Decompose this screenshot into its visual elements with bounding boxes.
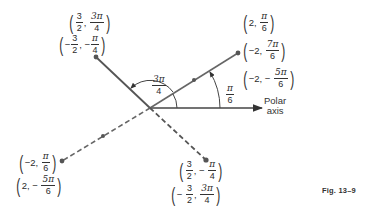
point-upper-left — [94, 55, 99, 60]
label-lower-right-1: ( 32 , − π4 ) — [178, 160, 224, 181]
label-upper-left-1: ( 32 , 3π4 ) — [68, 12, 111, 33]
label-upper-right-2: ( −2 , 7π6 ) — [242, 40, 287, 61]
label-lower-left-2: ( 2 , − 5π6 ) — [15, 175, 63, 196]
label-upper-left-2: ( − 32 , − π4 ) — [58, 34, 107, 55]
point-upper-right — [236, 51, 241, 56]
midpoint-dot-lower-left — [101, 134, 105, 138]
label-lower-right-2: ( − 32 , 3π4 ) — [170, 184, 222, 205]
angle-arc-small — [173, 94, 177, 108]
label-upper-right-1: ( 2 , π6 ) — [242, 12, 276, 33]
point-lower-left — [60, 159, 65, 164]
label-upper-right-3: ( −2 , − 5π6 ) — [242, 68, 295, 89]
polar-axis-label: Polar axis — [264, 96, 286, 116]
midpoint-dot-upper-right — [192, 78, 196, 82]
ray-upper-left — [96, 57, 150, 108]
angle-arc-pi-over-6 — [210, 72, 220, 108]
angle-label-three-pi-over-4: 3π4 — [151, 75, 167, 96]
angle-label-pi-over-6: π6 — [225, 84, 235, 105]
ray-lower-left-dashed — [62, 108, 150, 161]
label-lower-left-1: ( −2 , π6 ) — [18, 152, 57, 173]
ray-lower-right-dashed — [150, 108, 206, 160]
figure-caption: Fig. 13–9 — [322, 186, 356, 195]
